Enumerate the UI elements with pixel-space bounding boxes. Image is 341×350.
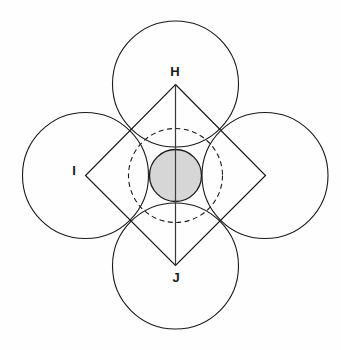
label-j: J [172,270,179,285]
geometry-figure: H I J [0,0,341,350]
label-i: I [72,163,76,178]
label-h: H [170,64,179,79]
